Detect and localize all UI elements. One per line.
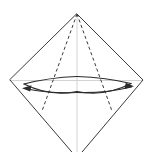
fold-arrow-left-head-icon bbox=[22, 85, 32, 91]
dashed-crease-right bbox=[77, 14, 112, 111]
bow-curve-lower-right bbox=[77, 77, 131, 84]
origami-diagram-container bbox=[0, 0, 152, 152]
dashed-crease-left bbox=[42, 14, 77, 111]
fold-arrow-right-shaft bbox=[77, 87, 132, 93]
origami-fold-diagram bbox=[0, 0, 152, 152]
